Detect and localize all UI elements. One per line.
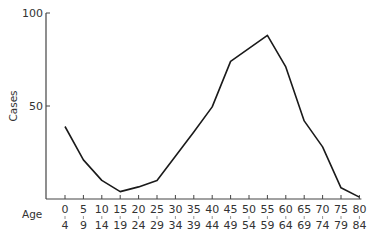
line-chart: 50100Cases045910141519202425293034353940…: [0, 0, 373, 234]
x-tick-label-end: 29: [150, 219, 164, 232]
x-tick-label-start: 55: [260, 203, 274, 216]
x-tick-label-end: 79: [334, 219, 348, 232]
x-tick-label-end: 9: [80, 219, 87, 232]
x-tick-label-end: 84: [352, 219, 366, 232]
x-tick-label-end: 19: [113, 219, 127, 232]
x-tick-label-start: 5: [80, 203, 87, 216]
x-tick-label-end: 24: [132, 219, 146, 232]
x-tick-label-start: 25: [150, 203, 164, 216]
y-axis-title: Cases: [7, 90, 19, 121]
plot-area: [65, 35, 359, 197]
x-tick-label-end: 39: [187, 219, 201, 232]
x-tick-label-end: 59: [260, 219, 274, 232]
x-tick-label-start: 75: [334, 203, 348, 216]
series-line-cases: [65, 35, 359, 197]
x-tick-label-end: 49: [224, 219, 238, 232]
x-axis-title: Age: [22, 208, 42, 220]
x-tick-label-end: 14: [95, 219, 109, 232]
x-tick-label-start: 50: [242, 203, 256, 216]
x-tick-label-start: 20: [132, 203, 146, 216]
x-tick-label-start: 40: [205, 203, 219, 216]
x-tick-label-end: 54: [242, 219, 256, 232]
y-tick-label: 100: [22, 7, 43, 20]
x-tick-label-start: 70: [316, 203, 330, 216]
x-tick-label-start: 35: [187, 203, 201, 216]
x-tick-label-end: 64: [279, 219, 293, 232]
x-tick-label-start: 30: [168, 203, 182, 216]
x-tick-label-end: 4: [62, 219, 69, 232]
x-tick-label-start: 10: [95, 203, 109, 216]
x-tick-label-start: 65: [297, 203, 311, 216]
x-tick-label-start: 80: [352, 203, 366, 216]
x-tick-label-start: 60: [279, 203, 293, 216]
x-tick-label-start: 15: [113, 203, 127, 216]
x-tick-label-start: 45: [224, 203, 238, 216]
x-tick-label-start: 0: [62, 203, 69, 216]
x-tick-label-end: 74: [316, 219, 330, 232]
x-tick-label-end: 69: [297, 219, 311, 232]
x-tick-label-end: 34: [168, 219, 182, 232]
x-tick-label-end: 44: [205, 219, 219, 232]
axis-labels: 50100Cases045910141519202425293034353940…: [7, 7, 366, 232]
y-tick-label: 50: [29, 100, 43, 113]
